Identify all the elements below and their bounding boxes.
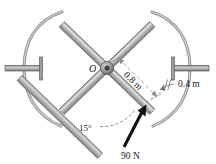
force-label-90n: 90 N (121, 151, 140, 161)
mechanics-diagram: 0.8 m 0.4 m 90 N 15° O (0, 0, 216, 164)
figure-root: 0.8 m 0.4 m 90 N 15° O (0, 0, 216, 164)
center-point-label-o: O (89, 63, 96, 74)
dimension-label-0-4m: 0.4 m (178, 79, 200, 89)
angle-label-15deg: 15° (79, 123, 92, 133)
hub (100, 61, 113, 74)
